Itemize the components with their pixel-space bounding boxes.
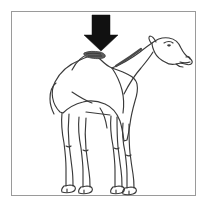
camel-brow: [164, 42, 173, 44]
camel-illustration-canvas: [0, 0, 213, 211]
camel-rear-leg-near-back: [79, 117, 83, 187]
camel-nostril: [186, 57, 190, 59]
camel-flank-crease-3: [100, 108, 107, 128]
down-arrow: [84, 15, 118, 51]
camel-rear-leg-near: [85, 118, 90, 187]
camel-rear-leg-far-back: [62, 113, 66, 186]
figure-root: [0, 0, 213, 211]
camel-flank-crease-1: [72, 92, 92, 103]
camel-shoulder-line: [112, 68, 124, 113]
camel-group: [50, 36, 192, 195]
camel-mouth: [180, 62, 190, 63]
camel-body-outline: [52, 56, 137, 141]
camel-knee-rear-far: [66, 146, 71, 147]
camel-knee-rear-near: [83, 150, 88, 151]
camel-eye: [167, 44, 171, 46]
down-arrow-shape: [84, 15, 118, 51]
camel-knee-front-far: [114, 148, 119, 149]
camel-rear-leg-far: [68, 114, 73, 186]
camel-mane-line: [116, 49, 141, 66]
camel-knee-front-near: [126, 155, 131, 156]
camel-flank-crease-2: [86, 112, 110, 115]
camel-front-leg-far-back: [111, 116, 115, 187]
camel-chin: [176, 64, 183, 67]
